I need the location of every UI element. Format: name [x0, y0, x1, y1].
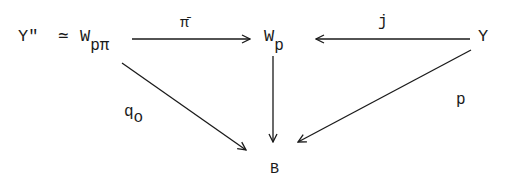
label-pibar: π̄	[180, 16, 189, 31]
node-y-double-prime: Y"	[18, 28, 38, 45]
simeq-symbol: ≃	[58, 28, 68, 45]
node-w-ppi-base: W	[80, 27, 90, 46]
node-w-p-base: W	[264, 27, 274, 46]
arrow-p	[298, 50, 471, 142]
node-b: B	[270, 162, 279, 177]
node-w-p-sub: p	[274, 37, 284, 55]
node-y: Y	[478, 28, 488, 45]
label-j: j	[378, 14, 388, 30]
label-q-sub: o	[134, 109, 144, 127]
label-p: p	[456, 92, 466, 108]
node-w-ppi: Wpπ	[80, 28, 109, 45]
node-w-ppi-sub: pπ	[90, 37, 109, 55]
label-q0: qo	[124, 104, 143, 120]
label-q: q	[124, 103, 134, 121]
node-w-p: Wp	[264, 28, 284, 45]
arrows-layer	[0, 0, 505, 183]
